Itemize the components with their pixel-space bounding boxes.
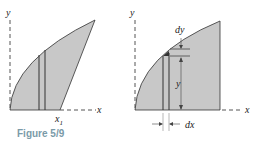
dx-arrowhead-left (159, 122, 163, 126)
right-panel: y x dy y dx (129, 7, 250, 131)
left-x-label: x (96, 104, 102, 115)
left-panel: y x x1 (5, 7, 102, 127)
left-region (10, 20, 95, 110)
dx-arrowhead-right (169, 122, 173, 126)
dx-label: dx (185, 119, 195, 130)
x1-label: x1 (54, 113, 63, 127)
right-x-label: x (244, 104, 250, 115)
left-y-label: y (5, 7, 11, 18)
height-y-label: y (175, 78, 181, 89)
dy-label: dy (175, 24, 185, 35)
figure-caption: Figure 5/9 (17, 128, 64, 139)
right-y-axis-label: y (129, 7, 135, 18)
